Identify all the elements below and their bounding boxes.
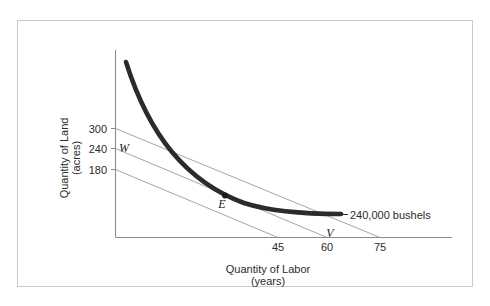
y-tick-label-180: 180 — [89, 164, 107, 176]
isoquant-curve — [126, 62, 341, 214]
isocost-lines-group — [116, 129, 381, 238]
x-tick-label-60: 60 — [321, 241, 333, 253]
x-tick-label-45: 45 — [272, 241, 284, 253]
isoquant-label: 240,000 bushels — [350, 209, 431, 221]
point-label-e: E — [217, 197, 226, 211]
isocost-line-high — [116, 129, 381, 238]
y-axis-title-group: Quantity of Land (acres) — [58, 118, 82, 199]
y-tick-label-300: 300 — [89, 123, 107, 135]
y-tick-label-240: 240 — [89, 143, 107, 155]
point-label-w: W — [119, 141, 130, 155]
y-tick-marks — [111, 129, 116, 170]
isoquant-isocost-chart: 300 240 180 45 60 75 W E V 240,000 bushe… — [0, 0, 490, 306]
x-axis-title-line1: Quantity of Labor — [226, 263, 311, 275]
y-axis-title-line1: Quantity of Land — [58, 118, 70, 199]
x-axis-title-group: Quantity of Labor (years) — [226, 263, 311, 287]
x-tick-label-75: 75 — [374, 241, 386, 253]
y-axis-title-line2: (acres) — [70, 141, 82, 175]
x-axis-title-line2: (years) — [251, 275, 285, 287]
figure-root: 300 240 180 45 60 75 W E V 240,000 bushe… — [0, 0, 490, 306]
